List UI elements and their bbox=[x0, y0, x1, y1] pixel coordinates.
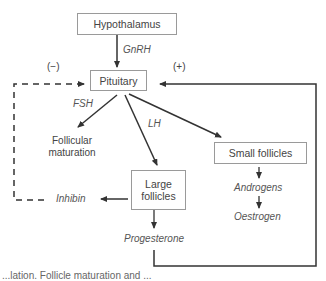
small-follicles-node: Small follicles bbox=[214, 142, 307, 164]
hypothalamus-label: Hypothalamus bbox=[93, 18, 160, 30]
follicular-maturation-node: Follicular maturation bbox=[46, 135, 98, 159]
positive-feedback-sign: (+) bbox=[173, 61, 186, 73]
pituitary-node: Pituitary bbox=[90, 70, 147, 91]
progesterone-label: Progesterone bbox=[124, 233, 184, 245]
large-follicles-node: Large follicles bbox=[131, 170, 186, 210]
follicular-maturation-label: Follicular maturation bbox=[48, 135, 95, 158]
large-follicles-label: Large follicles bbox=[136, 178, 181, 202]
pituitary-label: Pituitary bbox=[100, 75, 138, 87]
lh-label: LH bbox=[148, 118, 161, 130]
small-follicles-label: Small follicles bbox=[229, 147, 293, 159]
gnrh-label: GnRH bbox=[123, 44, 151, 56]
oestrogen-label: Oestrogen bbox=[234, 211, 281, 223]
inhibin-label: Inhibin bbox=[56, 193, 85, 205]
androgens-label: Androgens bbox=[234, 182, 282, 194]
figure-caption-fragment: ...lation. Follicle maturation and ... bbox=[2, 270, 152, 281]
hypothalamus-node: Hypothalamus bbox=[77, 13, 177, 35]
negative-feedback-sign: (−) bbox=[47, 61, 60, 73]
fsh-label: FSH bbox=[73, 98, 93, 110]
